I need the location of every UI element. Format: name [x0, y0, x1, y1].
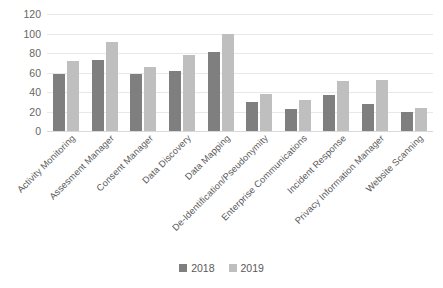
y-axis-tick-0: 0	[7, 126, 41, 136]
bar-group	[240, 14, 279, 131]
bar-2018	[246, 102, 258, 131]
bar-2019	[376, 80, 388, 131]
bar-2019	[415, 108, 427, 131]
legend-label: 2018	[191, 262, 214, 274]
bar-group	[163, 14, 202, 131]
bar-group	[201, 14, 240, 131]
y-axis-tick-20: 20	[7, 107, 41, 117]
plot-area	[47, 14, 433, 131]
bar-2019	[144, 67, 156, 131]
gridline-0	[47, 131, 433, 132]
bar-2018	[169, 71, 181, 131]
bar-chart: 020406080100120 Activity MonitoringAsses…	[0, 0, 443, 288]
legend-swatch-icon	[179, 264, 187, 272]
bar-2018	[323, 95, 335, 131]
bar-2018	[130, 74, 142, 131]
bar-2019	[337, 81, 349, 131]
bar-group	[279, 14, 318, 131]
bar-2019	[222, 34, 234, 132]
chart-legend: 20182019	[0, 262, 443, 274]
bar-2019	[299, 100, 311, 131]
y-axis-tick-40: 40	[7, 87, 41, 97]
legend-item-2019[interactable]: 2019	[229, 262, 264, 274]
y-axis-tick-60: 60	[7, 68, 41, 78]
bar-2019	[183, 55, 195, 131]
bar-groups	[47, 14, 433, 131]
bar-group	[317, 14, 356, 131]
bar-group	[356, 14, 395, 131]
x-axis-label: Assesment Manager	[47, 133, 116, 202]
bar-group	[86, 14, 125, 131]
bar-2019	[106, 42, 118, 131]
bar-2019	[67, 61, 79, 131]
bar-group	[394, 14, 433, 131]
bar-2018	[53, 74, 65, 131]
legend-label: 2019	[241, 262, 264, 274]
bar-2019	[260, 94, 272, 131]
y-axis-tick-80: 80	[7, 48, 41, 58]
legend-swatch-icon	[229, 264, 237, 272]
bar-group	[47, 14, 86, 131]
bar-2018	[208, 52, 220, 131]
bar-2018	[92, 60, 104, 131]
y-axis-tick-120: 120	[7, 9, 41, 19]
legend-item-2018[interactable]: 2018	[179, 262, 214, 274]
y-axis-tick-100: 100	[7, 29, 41, 39]
bar-2018	[362, 104, 374, 131]
x-axis-category-labels: Activity MonitoringAssesment ManagerCons…	[47, 133, 433, 253]
bar-2018	[285, 109, 297, 131]
bar-2018	[401, 112, 413, 132]
bar-group	[124, 14, 163, 131]
